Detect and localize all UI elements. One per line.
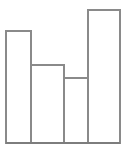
bar-4	[88, 10, 120, 143]
bar-1	[6, 31, 31, 143]
bar-series	[6, 10, 120, 143]
bar-chart-figure	[0, 0, 126, 153]
bar-2	[31, 65, 64, 143]
chart-plot-area	[0, 0, 126, 153]
bar-3	[64, 78, 88, 143]
